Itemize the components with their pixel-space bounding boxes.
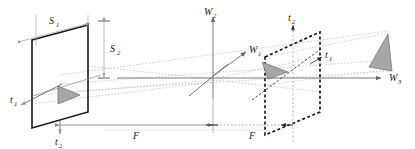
image-plane-guide: [252, 48, 322, 100]
label-t1-right-sub: 1: [329, 55, 332, 62]
label-w1-sub: 1: [258, 50, 261, 57]
label-t2-left: t: [55, 136, 58, 147]
virtual-triangle: [369, 34, 392, 71]
image-plane: [265, 32, 320, 135]
optical-geometry-diagram: S 1 S 2 t 1 t 2 W 2 W 1 W 3 t 2 t 1 F F: [0, 0, 415, 149]
object-plane: [32, 25, 88, 128]
label-s2: S: [110, 43, 115, 54]
label-t1-left: t: [10, 94, 13, 105]
w1-axis-arrow: [213, 52, 246, 76]
t1-left-arrow: [21, 84, 62, 105]
label-s2-sub: 2: [117, 49, 121, 56]
ray-line: [60, 60, 388, 84]
label-f-right: F: [248, 130, 256, 141]
label-t2-right: t: [288, 12, 291, 23]
label-w3-sub: 3: [397, 78, 402, 85]
figure-canvas: S 1 S 2 t 1 t 2 W 2 W 1 W 3 t 2 t 1 F F: [0, 0, 415, 149]
ray-line: [88, 66, 213, 79]
label-s1: S: [49, 15, 54, 26]
label-s1-sub: 1: [56, 21, 59, 28]
label-t1-left-sub: 1: [14, 100, 17, 107]
label-f-left: F: [132, 130, 140, 141]
ray-line: [213, 80, 322, 92]
label-t2-left-sub: 2: [59, 142, 63, 149]
label-w2-sub: 2: [213, 12, 217, 19]
label-t2-right-sub: 2: [292, 18, 296, 25]
object-triangle: [58, 86, 80, 104]
projection-ray-bundle: [32, 31, 392, 104]
label-t1-right: t: [325, 49, 328, 60]
